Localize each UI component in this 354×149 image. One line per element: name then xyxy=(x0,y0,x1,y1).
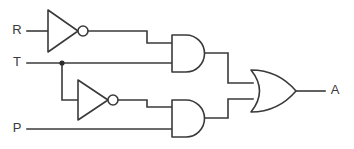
wire-inverter1-to-and1 xyxy=(88,31,172,43)
or-gate-1 xyxy=(251,70,296,112)
not-gate-1-bubble-icon xyxy=(78,26,88,36)
and-gate-1-body xyxy=(172,35,205,72)
not-gate-2 xyxy=(78,80,118,120)
not-gate-1 xyxy=(48,10,88,52)
or-gate-1-body xyxy=(251,70,296,112)
not-gate-2-bubble-icon xyxy=(108,95,118,105)
input-label-p: P xyxy=(13,120,22,135)
junction-dot-t xyxy=(59,60,64,65)
input-label-t: T xyxy=(13,54,21,69)
and-gate-2-body xyxy=(172,100,205,137)
wire-and1-to-or xyxy=(204,53,253,83)
input-label-r: R xyxy=(12,22,21,37)
output-label-a: A xyxy=(331,82,340,97)
wire-and2-to-or xyxy=(204,99,253,118)
wire-inverter2-to-and2 xyxy=(118,100,172,107)
not-gate-2-triangle xyxy=(78,80,108,120)
circuit-canvas: R T P A xyxy=(0,0,354,149)
and-gate-2 xyxy=(172,100,205,137)
logic-circuit-diagram: R T P A xyxy=(0,0,354,149)
not-gate-1-triangle xyxy=(48,10,78,52)
wire-t-branch-to-inverter2 xyxy=(62,63,78,100)
and-gate-1 xyxy=(172,35,205,72)
